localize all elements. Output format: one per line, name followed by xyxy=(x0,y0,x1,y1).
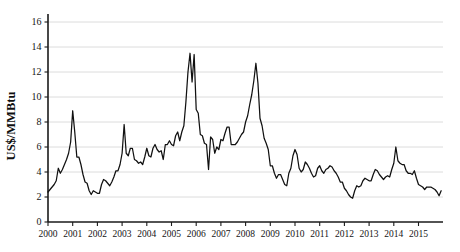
data-series-line xyxy=(48,53,441,198)
x-tick-label: 2014 xyxy=(384,229,403,239)
y-tick-label: 16 xyxy=(32,16,42,27)
y-tick-label: 2 xyxy=(37,191,42,202)
y-tick-label: 10 xyxy=(32,91,42,102)
x-tick-label: 2007 xyxy=(211,229,230,239)
y-tick-label: 6 xyxy=(37,141,42,152)
x-tick-label: 2006 xyxy=(187,229,206,239)
y-tick-label: 12 xyxy=(32,66,42,77)
x-tick-label: 2001 xyxy=(63,229,82,239)
x-tick-label: 2011 xyxy=(310,229,329,239)
x-tick-labels: 2000200120022003200420052006200720082009… xyxy=(39,229,429,239)
y-tick-label: 14 xyxy=(32,41,42,52)
x-tick-label: 2010 xyxy=(286,229,305,239)
x-tick-label: 2000 xyxy=(39,229,58,239)
x-tick-label: 2013 xyxy=(360,229,379,239)
x-tick-label: 2015 xyxy=(409,229,428,239)
y-tick-label: 4 xyxy=(37,166,42,177)
y-tick-label: 0 xyxy=(37,216,42,227)
x-tick-label: 2009 xyxy=(261,229,280,239)
chart-container: US$/MMBtu 0246810121416 2000200120022003… xyxy=(0,0,460,252)
y-tick-labels: 0246810121416 xyxy=(32,16,42,227)
x-tick-label: 2003 xyxy=(113,229,132,239)
x-tick-label: 2008 xyxy=(236,229,255,239)
line-chart-plot: 0246810121416 20002001200220032004200520… xyxy=(0,0,460,252)
x-tick-label: 2002 xyxy=(88,229,107,239)
y-tick-label: 8 xyxy=(37,116,42,127)
x-tick-label: 2004 xyxy=(137,229,156,239)
x-tick-label: 2005 xyxy=(162,229,181,239)
x-tick-label: 2012 xyxy=(335,229,354,239)
gridlines xyxy=(48,22,443,197)
